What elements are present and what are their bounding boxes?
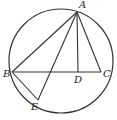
segment-AB: [12, 12, 77, 72]
diagram-canvas: [0, 0, 117, 120]
segments: [12, 12, 101, 100]
segment-AD: [77, 12, 78, 72]
label-a: A: [79, 0, 86, 10]
label-b: B: [3, 69, 10, 79]
label-c: C: [103, 69, 111, 79]
label-d: D: [74, 75, 82, 85]
segment-AE: [38, 12, 77, 100]
geometry-diagram: A B C D E: [0, 0, 117, 120]
segment-AC: [77, 12, 101, 72]
label-e: E: [31, 102, 38, 112]
